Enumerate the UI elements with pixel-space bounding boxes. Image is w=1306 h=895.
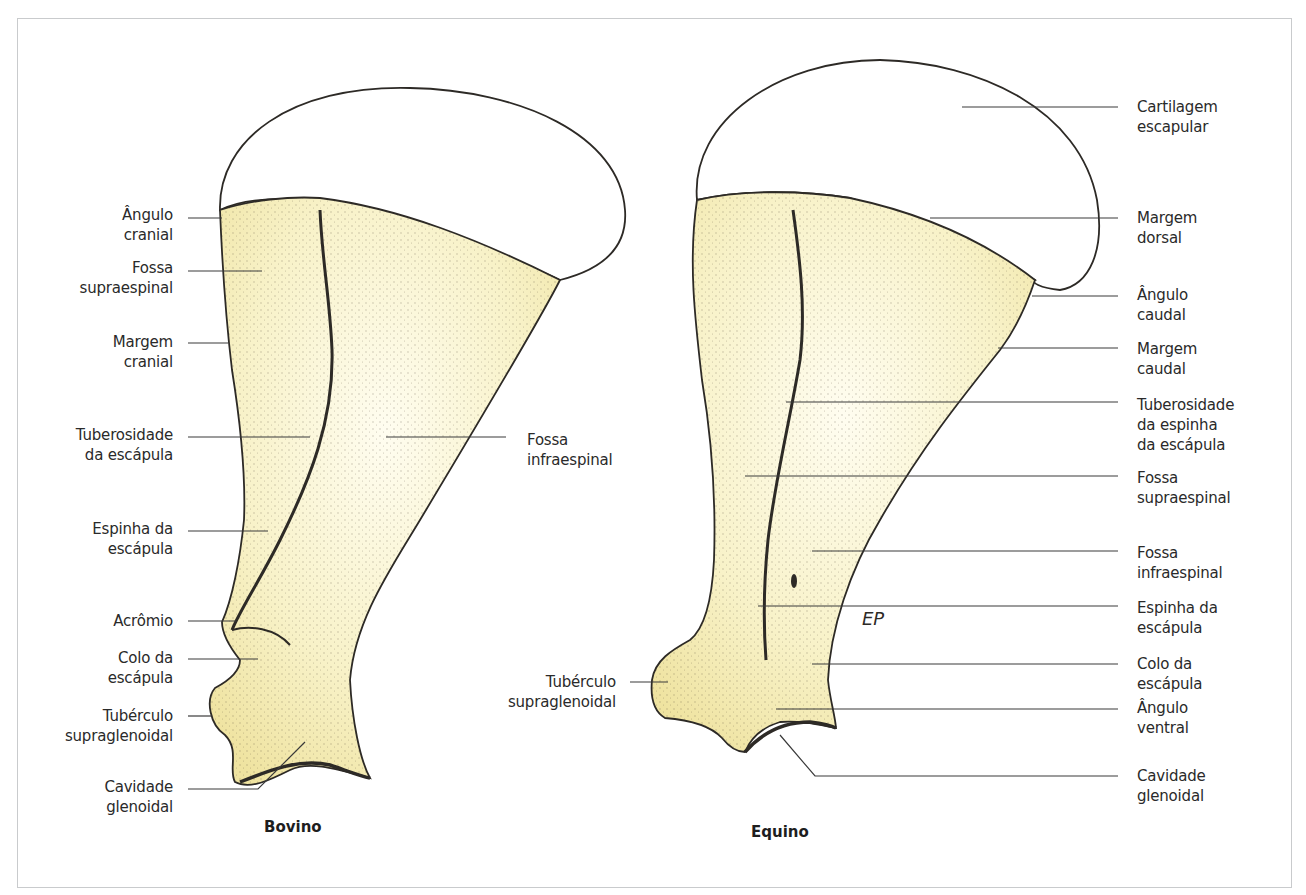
label-angulo-cranial: Ângulo cranial: [122, 205, 173, 245]
caption-bovino: Bovino: [264, 818, 322, 836]
label-tuberosidade-espinha-escapula: Tuberosidade da espinha da escápula: [1137, 395, 1234, 455]
label-tuberosidade-escapula: Tuberosidade da escápula: [76, 425, 173, 465]
label-colo-escapula-equino: Colo da escápula: [1137, 654, 1202, 694]
label-espinha-escapula-bovino: Espinha da escápula: [92, 519, 173, 559]
label-fossa-infraespinal-bovino: Fossa infraespinal: [527, 430, 613, 470]
caption-equino: Equino: [751, 823, 809, 841]
equine-scapula: EP: [652, 60, 1100, 752]
label-fossa-infraespinal-equino: Fossa infraespinal: [1137, 543, 1223, 583]
artist-signature: EP: [862, 608, 884, 629]
label-cavidade-glenoidal-equino: Cavidade glenoidal: [1137, 766, 1206, 806]
label-margem-dorsal: Margem dorsal: [1137, 208, 1197, 248]
label-espinha-escapula-equino: Espinha da escápula: [1137, 598, 1218, 638]
label-cavidade-glenoidal-bovino: Cavidade glenoidal: [104, 777, 173, 817]
label-fossa-supraespinal-equino: Fossa supraespinal: [1137, 468, 1230, 508]
label-angulo-ventral: Ângulo ventral: [1137, 698, 1189, 738]
label-tuberculo-supraglenoidal-equino: Tubérculo supraglenoidal: [508, 672, 616, 712]
label-margem-cranial: Margem cranial: [113, 332, 173, 372]
label-cartilagem-escapular: Cartilagem escapular: [1137, 97, 1218, 137]
label-fossa-supraespinal-bovino: Fossa supraespinal: [80, 258, 173, 298]
scapula-illustration: EP: [0, 0, 1306, 895]
label-tuberculo-supraglenoidal-bovino: Tubérculo supraglenoidal: [65, 706, 173, 746]
label-colo-escapula-bovino: Colo da escápula: [108, 648, 173, 688]
label-acromio: Acrômio: [113, 611, 173, 631]
label-margem-caudal: Margem caudal: [1137, 339, 1197, 379]
label-angulo-caudal: Ângulo caudal: [1137, 285, 1188, 325]
